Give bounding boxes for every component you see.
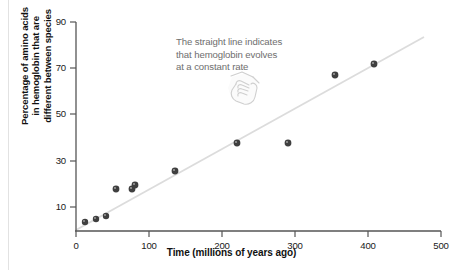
y-tick-label-10: 10 <box>44 201 66 212</box>
data-point <box>234 140 241 147</box>
x-tick-label-300: 300 <box>281 240 309 251</box>
data-point-highlights <box>83 62 374 222</box>
data-point <box>113 186 120 193</box>
data-point <box>285 140 292 147</box>
y-tick-label-90: 90 <box>44 16 66 27</box>
data-point <box>172 168 179 175</box>
y-tick-label-50: 50 <box>44 108 66 119</box>
data-point <box>82 219 88 225</box>
data-point <box>103 213 109 219</box>
data-point <box>132 182 139 189</box>
x-tick-label-200: 200 <box>208 240 236 251</box>
chart-figure: Percentage of amino acids in hemoglobin … <box>0 0 463 270</box>
data-point <box>371 61 378 68</box>
y-tick-label-30: 30 <box>44 155 66 166</box>
plot-area <box>0 0 463 270</box>
data-point <box>332 72 339 79</box>
x-tick-label-0: 0 <box>66 240 86 251</box>
data-point <box>93 216 99 222</box>
y-tick-label-70: 70 <box>44 62 66 73</box>
x-tick-label-100: 100 <box>135 240 163 251</box>
x-tick-label-400: 400 <box>354 240 382 251</box>
x-tick-label-500: 500 <box>427 240 455 251</box>
data-point-group <box>82 61 378 226</box>
